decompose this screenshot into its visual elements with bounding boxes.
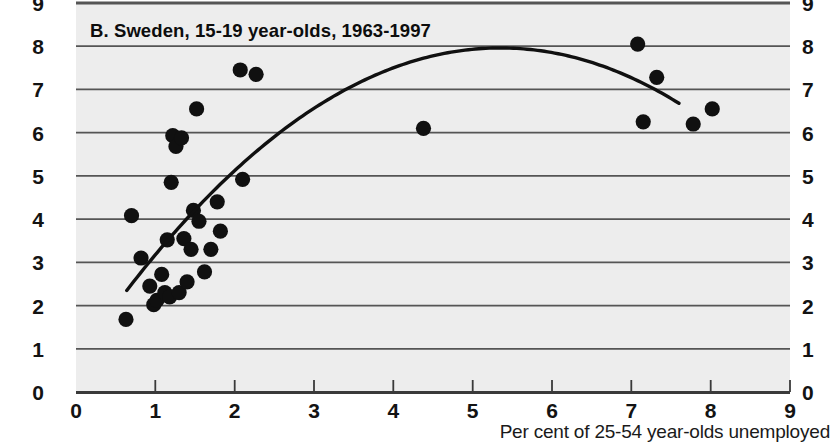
y-axis-label-left-0: 0 [18, 382, 44, 403]
plot-title: B. Sweden, 15-19 year-olds, 1963-1997 [90, 20, 431, 42]
x-axis-title: Per cent of 25-54 year-olds unemployed [500, 421, 830, 443]
y-axis-label-right-6: 6 [802, 123, 828, 144]
data-point [174, 130, 189, 145]
data-point [191, 214, 206, 229]
data-point [118, 312, 133, 327]
y-axis-label-right-5: 5 [802, 166, 828, 187]
y-axis-label-right-4: 4 [802, 209, 828, 230]
x-axis-label-6: 6 [540, 400, 564, 421]
y-axis-label-left-9: 9 [18, 0, 44, 14]
data-point [213, 224, 228, 239]
x-axis-label-5: 5 [461, 400, 485, 421]
data-point [197, 264, 212, 279]
data-point [183, 242, 198, 257]
data-point [210, 194, 225, 209]
data-point [179, 274, 194, 289]
y-axis-label-right-9: 9 [802, 0, 828, 14]
data-point [124, 208, 139, 223]
y-axis-label-left-8: 8 [18, 36, 44, 57]
y-axis-label-left-5: 5 [18, 166, 44, 187]
y-axis-label-right-8: 8 [802, 36, 828, 57]
data-point [203, 242, 218, 257]
data-point [164, 175, 179, 190]
scatter-plot-canvas [0, 0, 832, 447]
y-axis-label-left-2: 2 [18, 296, 44, 317]
data-point [154, 267, 169, 282]
y-axis-label-right-0: 0 [802, 382, 828, 403]
x-axis-label-3: 3 [302, 400, 326, 421]
data-point [233, 62, 248, 77]
y-axis-label-right-3: 3 [802, 252, 828, 273]
data-point [705, 101, 720, 116]
data-point [235, 172, 250, 187]
x-axis-label-4: 4 [381, 400, 405, 421]
y-axis-label-right-1: 1 [802, 339, 828, 360]
x-axis-label-1: 1 [143, 400, 167, 421]
data-point [248, 67, 263, 82]
chart-figure: B. Sweden, 15-19 year-olds, 1963-1997 Pe… [0, 0, 832, 447]
data-point [686, 116, 701, 131]
plot-background [76, 3, 790, 392]
y-axis-label-left-3: 3 [18, 252, 44, 273]
data-point [416, 121, 431, 136]
y-axis-label-right-2: 2 [802, 296, 828, 317]
x-axis-label-2: 2 [223, 400, 247, 421]
data-point [649, 70, 664, 85]
x-axis-label-0: 0 [64, 400, 88, 421]
y-axis-label-right-7: 7 [802, 79, 828, 100]
x-axis-label-7: 7 [619, 400, 643, 421]
data-point [630, 36, 645, 51]
x-axis-label-9: 9 [778, 400, 802, 421]
y-axis-label-left-6: 6 [18, 123, 44, 144]
x-axis-label-8: 8 [699, 400, 723, 421]
y-axis-label-left-1: 1 [18, 339, 44, 360]
data-point [636, 114, 651, 129]
y-axis-label-left-4: 4 [18, 209, 44, 230]
data-point [189, 101, 204, 116]
y-axis-label-left-7: 7 [18, 79, 44, 100]
data-point [142, 279, 157, 294]
